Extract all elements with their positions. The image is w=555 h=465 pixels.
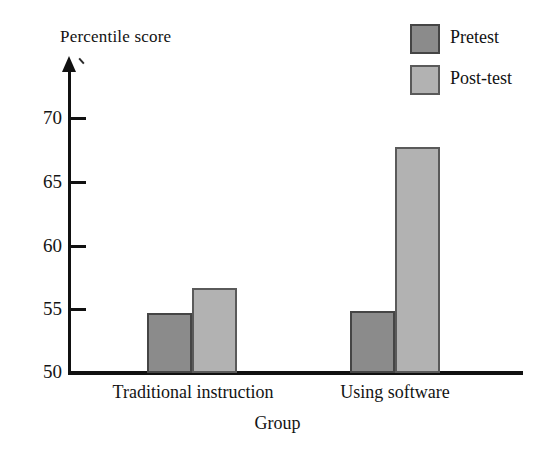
legend-swatch-pretest [410,24,440,54]
y-tick-label-50: 50 [16,362,62,381]
y-tick-label-65: 65 [16,172,62,191]
y-axis-arrow-accent-icon [78,58,84,65]
y-tick-mark-60 [71,245,86,248]
y-tick-mark-70 [71,117,86,120]
bar-traditional-pretest[interactable] [147,313,192,373]
y-axis-line [68,68,71,374]
y-tick-mark-55 [71,308,86,311]
x-category-label-using-software: Using software [320,382,470,403]
y-tick-label-55: 55 [16,299,62,318]
x-axis-title: Group [0,413,555,434]
bar-software-posttest[interactable] [395,147,440,373]
y-tick-label-70: 70 [16,108,62,127]
legend-swatch-posttest [410,65,440,95]
x-axis-line [68,371,523,375]
bar-chart: Percentile score 70 65 60 55 50 Traditio… [0,0,555,465]
y-axis-title: Percentile score [60,27,171,47]
y-tick-label-60: 60 [16,236,62,255]
legend-label-posttest: Post-test [450,68,512,89]
bar-traditional-posttest[interactable] [192,288,237,373]
bar-software-pretest[interactable] [350,311,395,373]
x-category-label-traditional-instruction: Traditional instruction [93,382,293,403]
y-axis-arrow-icon [62,56,76,72]
legend-label-pretest: Pretest [450,27,499,48]
y-tick-mark-65 [71,181,86,184]
